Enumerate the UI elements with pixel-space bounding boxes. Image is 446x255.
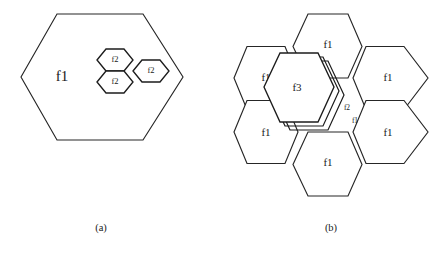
figure-canvas: f1 f2 f2 f2 (a) f1 f1 f1 [0, 0, 446, 255]
panel-a: f1 f2 f2 f2 (a) [21, 14, 183, 234]
panel-b-hexagon-lower-left-label: f1 [261, 126, 270, 138]
panel-b-center-hexagon-f1-label: f1 [352, 116, 358, 125]
panel-a-inner-hexagon-upper-left-label: f2 [111, 54, 118, 64]
panel-b-center-hexagon-f2-label: f2 [344, 103, 350, 112]
panel-b-center-hexagon-f3-label: f3 [292, 81, 302, 93]
panel-b-hexagon-lower-right-label: f1 [383, 126, 392, 138]
panel-a-inner-hexagon-lower-left-label: f2 [111, 76, 118, 86]
panel-b-hexagon-top-label: f1 [323, 38, 332, 50]
panel-a-inner-hexagon-right-label: f2 [147, 65, 154, 75]
figure-root: f1 f2 f2 f2 (a) f1 f1 f1 [0, 0, 446, 255]
panel-b-hexagon-upper-right-label: f1 [383, 71, 392, 83]
panel-a-outer-hexagon-label: f1 [56, 68, 69, 84]
panel-a-caption: (a) [95, 222, 107, 234]
panel-b-hexagon-bottom-label: f1 [323, 156, 332, 168]
panel-b-caption: (b) [325, 222, 338, 234]
panel-b: f1 f1 f1 f1 f1 f1 f3 f2 [234, 14, 428, 234]
